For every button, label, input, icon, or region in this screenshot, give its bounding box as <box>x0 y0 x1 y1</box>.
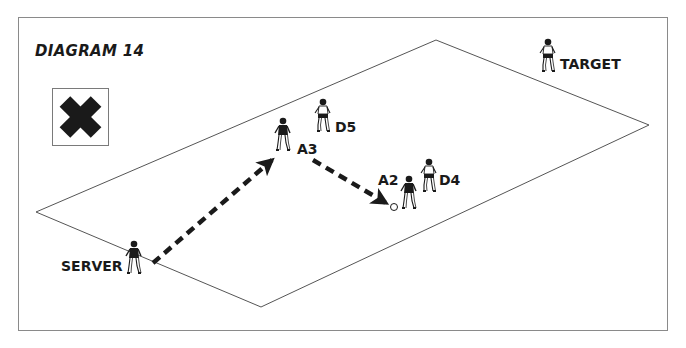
player-a3-icon <box>275 118 290 151</box>
label-d5: D5 <box>335 119 356 135</box>
field-boundary <box>36 40 649 307</box>
pass-arrow-server-to-a3 <box>153 160 272 263</box>
label-server: SERVER <box>61 258 123 274</box>
player-a2-icon <box>401 176 416 209</box>
ball-icon <box>391 204 398 211</box>
player-server-icon <box>126 241 141 274</box>
field-svg <box>0 0 686 348</box>
label-d4: D4 <box>439 172 460 188</box>
label-a3: A3 <box>297 141 318 157</box>
player-d5-icon <box>315 99 330 132</box>
player-target-icon <box>540 39 555 72</box>
label-a2: A2 <box>378 172 399 188</box>
label-target: TARGET <box>560 56 621 72</box>
pass-arrow-a3-to-a2 <box>313 160 386 203</box>
player-d4-icon <box>421 159 436 192</box>
diagram-canvas: DIAGRAM 14 <box>0 0 686 348</box>
